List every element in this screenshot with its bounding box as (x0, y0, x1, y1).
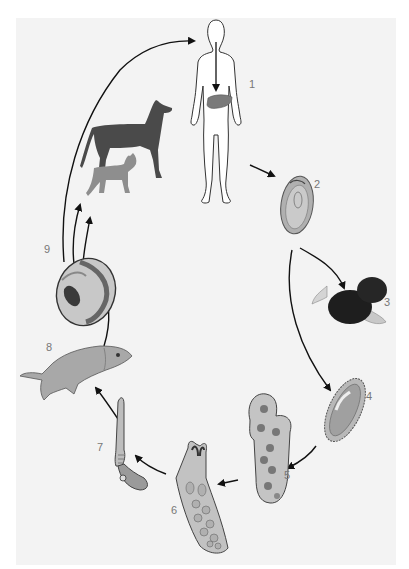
arrow-redia-to-cercaria (136, 456, 166, 474)
life-cycle-diagram (0, 0, 409, 569)
stage-label-9: 9 (44, 244, 50, 255)
cercaria-icon (115, 398, 147, 490)
cat-icon (86, 153, 136, 196)
stage-label-5: 5 (284, 470, 290, 481)
snail-icon (312, 277, 387, 324)
arrow-cyst-to-human (63, 41, 194, 262)
stage-label-4: 4 (366, 391, 372, 402)
arrow-sporocyst-to-redia (219, 480, 238, 484)
stage-label-8: 8 (46, 342, 52, 353)
stage-label-6: 6 (171, 505, 177, 516)
arrow-egg-to-snail (300, 248, 344, 288)
fish-icon (20, 346, 132, 400)
arrow-snail-to-miracidium (289, 250, 330, 390)
stage-label-7: 7 (97, 442, 103, 453)
redia-icon (176, 441, 228, 553)
arrow-cyst-to-cat (83, 218, 90, 264)
arrow-miracidium-to-sporocyst (288, 446, 316, 468)
metacercaria-cyst-icon (48, 251, 124, 334)
egg-icon (277, 174, 317, 236)
stage-label-1: 1 (249, 79, 255, 90)
stage-label-2: 2 (314, 179, 320, 190)
arrow-human-to-egg (250, 165, 274, 176)
arrow-cyst-to-dog (73, 205, 80, 264)
stage-label-3: 3 (384, 297, 390, 308)
sporocyst-icon (249, 394, 291, 503)
